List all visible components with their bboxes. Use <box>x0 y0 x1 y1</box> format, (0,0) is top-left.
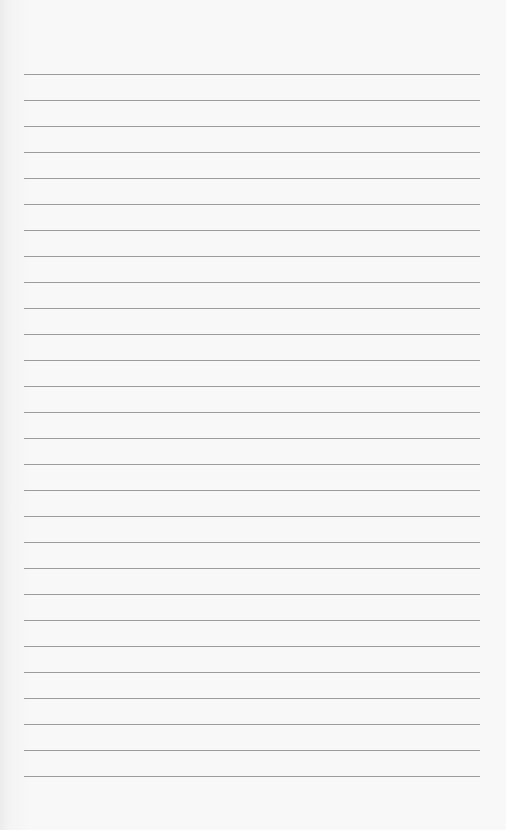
ruled-line <box>24 204 480 205</box>
ruled-line <box>24 620 480 621</box>
ruled-line <box>24 100 480 101</box>
ruled-line <box>24 698 480 699</box>
ruled-line <box>24 516 480 517</box>
ruled-line <box>24 750 480 751</box>
ruled-line <box>24 334 480 335</box>
ruled-line <box>24 776 480 777</box>
ruled-line <box>24 282 480 283</box>
ruled-line <box>24 490 480 491</box>
ruled-line <box>24 308 480 309</box>
ruled-line <box>24 386 480 387</box>
ruled-line <box>24 464 480 465</box>
ruled-line <box>24 542 480 543</box>
ruled-line <box>24 74 480 75</box>
ruled-line <box>24 568 480 569</box>
ruled-line <box>24 412 480 413</box>
ruled-line <box>24 594 480 595</box>
ruled-line <box>24 646 480 647</box>
lined-paper-sheet <box>0 0 506 830</box>
ruled-line <box>24 256 480 257</box>
ruled-line <box>24 438 480 439</box>
ruled-line <box>24 724 480 725</box>
ruled-line <box>24 360 480 361</box>
ruled-line <box>24 230 480 231</box>
ruled-line <box>24 178 480 179</box>
ruled-line <box>24 672 480 673</box>
ruled-line <box>24 126 480 127</box>
ruled-line <box>24 152 480 153</box>
